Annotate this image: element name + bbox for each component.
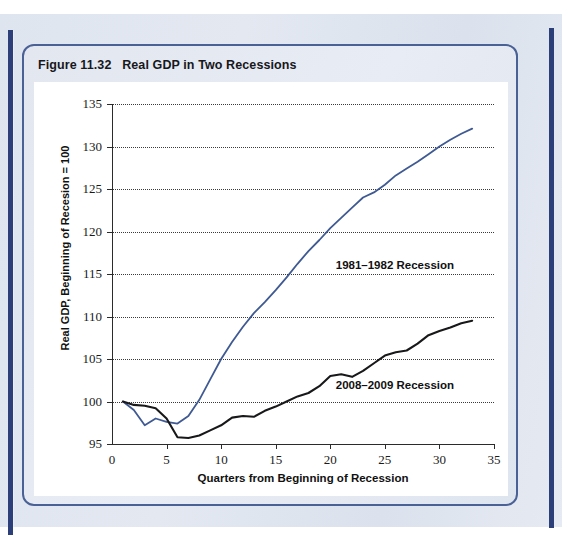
- page-left-rule: [8, 30, 13, 535]
- page-right-rule: [549, 28, 554, 528]
- page-sheet: Figure 11.32 Real GDP in Two Recessions …: [0, 14, 562, 527]
- figure-number: Figure 11.32: [38, 58, 111, 72]
- chart-x-axis-title: Quarters from Beginning of Recession: [112, 472, 494, 484]
- series-annotation-2008-2009: 2008–2009 Recession: [336, 379, 454, 391]
- chart-y-axis-title: Real GDP, Beginning of Recesion = 100: [59, 133, 71, 363]
- figure-card: Figure 11.32 Real GDP in Two Recessions …: [22, 44, 518, 506]
- figure-caption: Real GDP in Two Recessions: [122, 58, 296, 72]
- chart-plot-area: 95100105110115120125130135 0510152025303…: [34, 82, 508, 496]
- series-annotation-1981-1982: 1981–1982 Recession: [336, 259, 454, 271]
- figure-title: Figure 11.32 Real GDP in Two Recessions: [38, 58, 297, 72]
- chart-series-layer: [34, 82, 508, 496]
